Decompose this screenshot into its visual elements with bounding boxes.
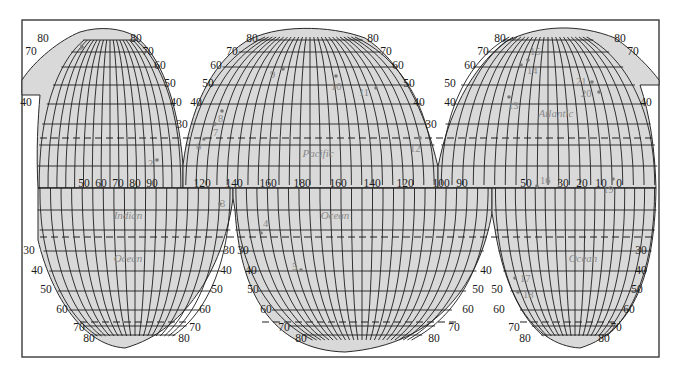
longitude-label: 160 [259, 177, 277, 189]
point-marker-icon [374, 86, 378, 90]
latitude-label: 40 [444, 96, 456, 108]
ocean-label-atlantic: Atlantic [538, 107, 574, 119]
latitude-label: 40 [190, 96, 202, 108]
latitude-label: 70 [142, 45, 154, 57]
world-map: 5060708090120140160180160140120100905030… [0, 0, 681, 373]
latitude-label: 50 [631, 283, 643, 295]
ocean-label-atlantic-ocean: Ocean [569, 252, 598, 264]
point-marker-icon [281, 67, 285, 71]
latitude-label: 70 [508, 321, 520, 333]
point-label: 18 [523, 289, 534, 300]
longitude-label: 50 [78, 177, 90, 189]
longitude-label: 180 [293, 177, 311, 189]
latitude-label: 60 [210, 59, 222, 71]
latitude-label: 30 [425, 118, 437, 130]
point-label: 5 [292, 261, 297, 272]
point-marker-icon [526, 58, 530, 62]
point-label: 10 [331, 81, 342, 92]
point-marker-icon [299, 268, 303, 272]
longitude-label: 20 [576, 177, 588, 189]
latitude-label: 60 [260, 303, 272, 315]
longitude-label: 90 [456, 177, 468, 189]
point-marker-icon [155, 158, 159, 162]
point-marker-icon [597, 90, 601, 94]
latitude-label: 60 [623, 303, 635, 315]
latitude-label: 80 [83, 332, 95, 344]
point-label: 19 [603, 184, 614, 195]
longitude-label: 60 [95, 177, 107, 189]
point-marker-icon [516, 290, 520, 294]
point-label: 8 [218, 113, 223, 124]
latitude-label: 60 [392, 59, 404, 71]
longitude-label: 140 [363, 177, 381, 189]
point-marker-icon [590, 80, 594, 84]
latitude-label: 70 [627, 45, 639, 57]
point-label: 1 [78, 41, 83, 52]
latitude-label: 60 [462, 303, 474, 315]
latitude-label: 40 [220, 264, 232, 276]
point-marker-icon [213, 122, 217, 126]
latitude-label: 80 [614, 32, 626, 44]
latitude-label: 50 [403, 77, 415, 89]
latitude-label: 70 [25, 45, 37, 57]
latitude-label: 70 [477, 45, 489, 57]
longitude-label: 50 [520, 177, 532, 189]
longitude-label: 70 [112, 177, 124, 189]
latitude-label: 30 [223, 244, 235, 256]
latitude-label: 40 [31, 264, 43, 276]
latitude-label: 50 [164, 77, 176, 89]
latitude-label: 40 [170, 96, 182, 108]
latitude-label: 70 [189, 321, 201, 333]
latitude-label: 40 [640, 96, 652, 108]
point-marker-icon [202, 137, 206, 141]
latitude-label: 40 [480, 264, 492, 276]
latitude-label: 30 [237, 244, 249, 256]
longitude-label: 160 [329, 177, 347, 189]
latitude-label: 80 [367, 32, 379, 44]
point-label: 11 [359, 87, 369, 98]
latitude-label: 60 [493, 303, 505, 315]
latitude-label: 80 [178, 332, 190, 344]
point-label: 16 [540, 175, 551, 186]
map-point-1: 1 [78, 41, 84, 52]
latitude-label: 80 [598, 332, 610, 344]
ocean-label-pacific-ocean: Ocean [321, 209, 350, 221]
latitude-label: 60 [56, 303, 68, 315]
point-label: 9 [270, 69, 275, 80]
point-marker-icon [513, 276, 517, 280]
point-label: 7 [213, 127, 218, 138]
latitude-label: 50 [247, 283, 259, 295]
point-label: 15 [530, 46, 541, 57]
point-label: 3 [220, 198, 225, 209]
latitude-label: 80 [428, 332, 440, 344]
point-label: 14 [527, 65, 538, 76]
longitude-label: 120 [193, 177, 211, 189]
longitude-label: 30 [557, 177, 569, 189]
point-marker-icon [507, 95, 511, 99]
longitude-label: 100 [432, 177, 450, 189]
latitude-label: 80 [130, 32, 142, 44]
latitude-label: 60 [464, 59, 476, 71]
latitude-label: 30 [176, 118, 188, 130]
point-label: 6 [196, 141, 201, 152]
point-marker-icon [611, 177, 615, 181]
point-marker-icon [519, 63, 523, 67]
point-label: 4 [263, 218, 269, 229]
latitude-label: 30 [23, 244, 35, 256]
latitude-label: 80 [519, 332, 531, 344]
point-label: 21 [576, 76, 587, 87]
latitude-label: 70 [380, 45, 392, 57]
latitude-label: 60 [199, 303, 211, 315]
point-label: 13 [508, 100, 519, 111]
latitude-label: 60 [154, 59, 166, 71]
latitude-label: 70 [448, 321, 460, 333]
longitude-label: 140 [225, 177, 243, 189]
longitude-label: 90 [146, 177, 158, 189]
latitude-label: 40 [20, 96, 32, 108]
latitude-label: 40 [245, 264, 257, 276]
latitude-label: 80 [246, 32, 258, 44]
point-marker-icon [418, 136, 422, 140]
latitude-label: 80 [37, 32, 49, 44]
point-marker-icon [334, 74, 338, 78]
latitude-label: 80 [295, 332, 307, 344]
